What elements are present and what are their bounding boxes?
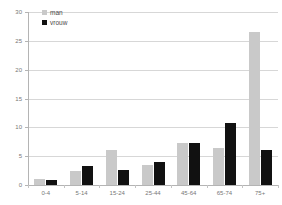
x-axis-line [28, 185, 278, 186]
y-tick-label: 25 [0, 38, 22, 44]
x-tick-mark [99, 185, 100, 188]
bar-75plus-vrouw [261, 150, 272, 185]
legend-item-man[interactable]: man [42, 8, 67, 17]
y-axis-line [28, 12, 29, 185]
bar-45-64-vrouw [189, 143, 200, 185]
x-tick-label: 45-64 [171, 190, 207, 197]
bar-15-24-man [106, 150, 117, 185]
x-tick-label: 5-14 [64, 190, 100, 197]
plot-area [28, 12, 278, 185]
bar-25-44-vrouw [154, 162, 165, 185]
x-tick-label: 0-4 [28, 190, 64, 197]
x-tick-label: 15-24 [99, 190, 135, 197]
legend-label-man: man [50, 8, 63, 17]
bar-25-44-man [142, 165, 153, 185]
bar-5-14-man [70, 171, 81, 185]
gridline [28, 127, 278, 128]
gridline [28, 70, 278, 71]
x-tick-label: 75+ [242, 190, 278, 197]
x-tick-label: 65-74 [207, 190, 243, 197]
bar-5-14-vrouw [82, 166, 93, 185]
gridline [28, 99, 278, 100]
x-tick-mark [135, 185, 136, 188]
gridline [28, 41, 278, 42]
legend-swatch-man-icon [42, 10, 47, 15]
y-tick-label: 30 [0, 9, 22, 15]
bar-65-74-vrouw [225, 123, 236, 185]
legend-swatch-vrouw-icon [42, 20, 47, 25]
y-tick-label: 5 [0, 153, 22, 159]
bar-15-24-vrouw [118, 170, 129, 185]
gridline [28, 156, 278, 157]
x-tick-mark [28, 185, 29, 188]
x-tick-mark [64, 185, 65, 188]
x-tick-mark [171, 185, 172, 188]
x-tick-label: 25-44 [135, 190, 171, 197]
y-tick-label: 20 [0, 67, 22, 73]
x-tick-mark [242, 185, 243, 188]
x-tick-mark [278, 185, 279, 188]
bar-chart: 051015202530 0-45-1415-2425-4445-6465-74… [0, 0, 282, 205]
legend-item-vrouw[interactable]: vrouw [42, 18, 67, 27]
bar-75plus-man [249, 32, 260, 185]
legend-label-vrouw: vrouw [50, 18, 67, 27]
y-tick-label: 10 [0, 124, 22, 130]
bar-65-74-man [213, 148, 224, 185]
bar-45-64-man [177, 143, 188, 185]
y-tick-label: 0 [0, 182, 22, 188]
x-tick-mark [207, 185, 208, 188]
y-tick-label: 15 [0, 96, 22, 102]
legend: man vrouw [42, 8, 67, 28]
